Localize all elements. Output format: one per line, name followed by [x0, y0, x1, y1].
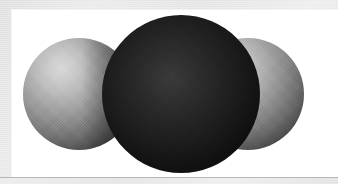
- figure-root: Grayscale space-filling model of a linea…: [0, 0, 338, 184]
- illustration-panel: [11, 9, 338, 177]
- panel-bottom-rule: [0, 177, 338, 178]
- atom-center-grain-overlay: [102, 15, 260, 173]
- atom-sphere-center: [102, 15, 260, 173]
